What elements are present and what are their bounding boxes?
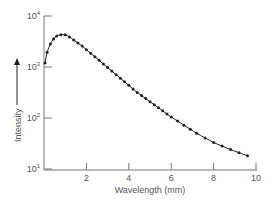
data-point	[110, 70, 113, 73]
data-point	[165, 112, 168, 115]
data-point	[89, 52, 92, 55]
y-tick-label: 104	[27, 10, 41, 21]
data-point	[44, 61, 47, 64]
series-markers	[44, 33, 249, 157]
y-axis-title: Intensity	[13, 58, 23, 142]
data-point	[176, 120, 179, 123]
data-point	[182, 124, 185, 127]
data-series	[44, 33, 249, 157]
data-point	[123, 80, 126, 83]
data-point	[195, 132, 198, 135]
data-point	[221, 145, 224, 148]
data-point	[115, 73, 118, 76]
data-point	[204, 136, 207, 139]
data-point	[59, 33, 62, 36]
data-point	[157, 106, 160, 109]
data-point	[49, 43, 52, 46]
series-line	[45, 35, 247, 156]
data-point	[119, 77, 122, 80]
data-point	[140, 94, 143, 97]
up-arrow-head-icon	[14, 58, 20, 65]
data-point	[229, 148, 232, 151]
data-point	[68, 35, 71, 38]
data-point	[64, 33, 67, 36]
data-point	[189, 128, 192, 131]
data-point	[144, 97, 147, 100]
data-point	[132, 87, 135, 90]
y-tick-label: 101	[27, 163, 41, 174]
data-point	[81, 45, 84, 48]
x-tick-label: 10	[251, 173, 261, 183]
x-tick-label: 2	[84, 173, 89, 183]
x-tick-label: 6	[169, 173, 174, 183]
data-point	[246, 154, 249, 157]
data-point	[102, 62, 105, 65]
data-point	[46, 51, 49, 54]
data-point	[127, 84, 130, 87]
x-axis-label: Wavelength (mm)	[115, 185, 186, 195]
data-point	[76, 42, 79, 45]
x-tick-label: 4	[126, 173, 131, 183]
chart: 104103102101 246810 Intensity Wavelength…	[0, 0, 274, 204]
data-point	[212, 141, 215, 144]
y-axis-label: Intensity	[13, 108, 23, 142]
data-point	[161, 109, 164, 112]
y-tick-label: 103	[27, 61, 41, 72]
data-point	[52, 37, 55, 40]
data-point	[106, 66, 109, 69]
data-point	[72, 38, 75, 41]
data-point	[98, 59, 101, 62]
data-point	[136, 91, 139, 94]
data-point	[149, 100, 152, 103]
x-axis: 246810	[44, 163, 261, 183]
data-point	[85, 48, 88, 51]
data-point	[55, 34, 58, 37]
y-tick-label: 102	[27, 112, 41, 123]
data-point	[93, 55, 96, 58]
x-tick-label: 8	[211, 173, 216, 183]
y-axis: 104103102101	[27, 10, 52, 174]
data-point	[170, 115, 173, 118]
data-point	[238, 151, 241, 154]
data-point	[153, 103, 156, 106]
